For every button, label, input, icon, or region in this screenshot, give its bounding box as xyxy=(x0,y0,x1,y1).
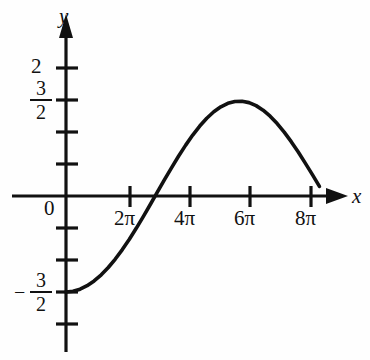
graph-canvas xyxy=(0,0,370,360)
y-axis-label: y xyxy=(59,6,68,27)
y-tick-label-minus-three-halves: 3 2 xyxy=(30,270,52,315)
x-tick-label-4pi: 4π xyxy=(174,208,195,229)
x-axis-arrowhead xyxy=(326,188,348,204)
origin-label: 0 xyxy=(44,198,55,219)
y-tick-label-2: 2 xyxy=(31,56,42,77)
fraction-denominator: 2 xyxy=(30,294,52,314)
x-axis-label: x xyxy=(352,186,361,207)
x-tick-label-8pi: 8π xyxy=(295,208,316,229)
x-tick-label-6pi: 6π xyxy=(234,208,255,229)
x-tick-label-2pi: 2π xyxy=(114,208,135,229)
fraction-numerator: 3 xyxy=(30,270,52,290)
y-tick-label-minus-sign: − xyxy=(14,281,25,304)
fraction-denominator: 2 xyxy=(30,102,52,122)
graph-figure: y x 0 2 3 2 − 3 2 2π 4π 6π 8π xyxy=(0,0,370,360)
fraction-numerator: 3 xyxy=(30,78,52,98)
y-tick-label-three-halves: 3 2 xyxy=(30,78,52,123)
